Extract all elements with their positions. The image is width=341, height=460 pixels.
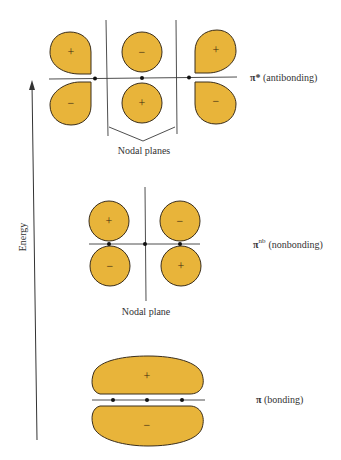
level-label-nonbonding: πnb(nonbonding) — [253, 237, 323, 251]
nodal-plane-line — [176, 20, 177, 134]
phase-sign: − — [144, 418, 151, 432]
atom-dot — [107, 242, 111, 246]
atom-dot — [187, 76, 191, 80]
molecular-orbital-diagram: Energy + − + − + − Nodal planes π* (anti… — [0, 0, 341, 460]
phase-sign: + — [139, 96, 146, 110]
orbital-nonbonding: + − − + Nodal plane πnb(nonbonding) — [89, 187, 323, 317]
level-label-bonding: π (bonding) — [256, 394, 303, 406]
orbital-antibonding: + − + − + − Nodal planes π* (antibonding… — [49, 20, 317, 156]
phase-sign: + — [106, 214, 113, 228]
arrowhead-icon — [29, 80, 35, 90]
atom-dot — [111, 398, 115, 402]
nodal-planes-caption: Nodal planes — [118, 145, 171, 156]
orbital-bonding: + − π (bonding) — [92, 356, 303, 446]
phase-sign: − — [177, 214, 184, 228]
atom-dot — [93, 77, 97, 81]
phase-sign: + — [68, 45, 75, 59]
atom-dot — [143, 242, 147, 246]
atom-dot — [145, 398, 149, 402]
energy-axis: Energy — [17, 80, 37, 440]
atom-dot — [140, 76, 144, 80]
phase-sign: − — [139, 45, 146, 59]
phase-sign: + — [213, 43, 220, 57]
energy-arrow-icon — [32, 84, 37, 440]
phase-sign: − — [107, 259, 114, 273]
phase-sign: + — [144, 369, 151, 383]
energy-axis-label: Energy — [17, 223, 28, 252]
level-label-antibonding: π* (antibonding) — [250, 72, 317, 84]
nodal-plane-caption: Nodal plane — [122, 306, 171, 317]
nodal-planes-bracket — [109, 127, 175, 141]
atom-dot — [180, 398, 184, 402]
atom-dot — [178, 242, 182, 246]
phase-sign: − — [68, 96, 75, 110]
phase-sign: − — [213, 94, 220, 108]
phase-sign: + — [178, 259, 185, 273]
